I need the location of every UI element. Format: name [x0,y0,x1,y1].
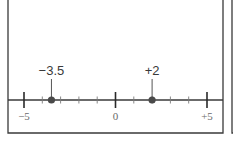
point-label: −3.5 [39,63,65,78]
tick-label: +5 [201,110,213,122]
point-marker [149,96,156,103]
adjacent-frame-edge [232,0,233,133]
number-line-diagram: −50+5 −3.5+2 [0,0,233,142]
points-group: −3.5+2 [39,63,160,104]
point-label: +2 [145,63,160,78]
point-marker [48,96,55,103]
tick-label: 0 [113,110,119,122]
tick-labels-group: −50+5 [18,110,213,122]
tick-label: −5 [18,110,30,122]
